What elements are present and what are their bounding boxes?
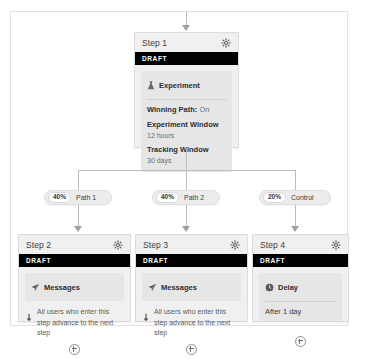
experiment-block-header: Experiment bbox=[147, 76, 226, 94]
delay-value: After 1 day bbox=[265, 307, 336, 316]
messages-block-header: Messages bbox=[31, 278, 118, 296]
branch-drop-center bbox=[186, 170, 187, 190]
experiment-block-label: Experiment bbox=[159, 81, 200, 90]
status-badge: DRAFT bbox=[135, 52, 238, 65]
branch-drop-right bbox=[295, 170, 296, 190]
card-header: Step 2 bbox=[19, 235, 130, 254]
delay-block-label: Delay bbox=[278, 283, 298, 292]
branch-pill-path-1[interactable]: 40% Path 1 bbox=[44, 190, 112, 205]
flask-icon bbox=[147, 76, 155, 94]
messages-block[interactable]: Messages bbox=[142, 273, 241, 301]
status-badge: DRAFT bbox=[136, 254, 247, 267]
branch-label: Path 2 bbox=[184, 194, 204, 201]
plus-icon[interactable] bbox=[295, 336, 306, 347]
status-label: DRAFT bbox=[142, 55, 167, 62]
messages-block-label: Messages bbox=[44, 283, 80, 292]
step-title: Step 3 bbox=[143, 240, 168, 250]
arrow-down-icon bbox=[182, 25, 190, 31]
branch-pill-control[interactable]: 20% Control bbox=[259, 190, 331, 205]
messages-block-label: Messages bbox=[161, 283, 197, 292]
branch-trunk-line bbox=[186, 148, 187, 170]
flow-canvas: Step 1 DRAFT bbox=[10, 11, 348, 326]
winning-path-value: On bbox=[199, 105, 209, 114]
messages-block-header: Messages bbox=[148, 278, 235, 296]
send-icon bbox=[148, 278, 157, 296]
step-card-2[interactable]: Step 2 DRAFT bbox=[18, 234, 131, 322]
arrow-down-icon bbox=[291, 226, 299, 232]
arrow-down-icon bbox=[74, 226, 82, 232]
clock-icon bbox=[265, 278, 274, 296]
card-header: Step 3 bbox=[136, 235, 247, 254]
delay-block[interactable]: Delay After 1 day bbox=[259, 273, 342, 321]
add-step-wrap bbox=[253, 327, 348, 353]
arrow-down-icon bbox=[182, 226, 190, 232]
status-label: DRAFT bbox=[26, 257, 51, 264]
branch-percent: 20% bbox=[263, 192, 286, 204]
step-card-3[interactable]: Step 3 DRAFT bbox=[135, 234, 248, 322]
branch-percent: 40% bbox=[48, 192, 71, 204]
entry-connector-line bbox=[186, 12, 187, 26]
branch-label: Control bbox=[291, 194, 314, 201]
delay-block-header: Delay bbox=[265, 278, 336, 296]
status-label: DRAFT bbox=[260, 257, 285, 264]
step-note: All users who enter this step advance to… bbox=[19, 307, 130, 339]
add-step-wrap bbox=[19, 339, 130, 359]
arrow-down-icon bbox=[25, 308, 33, 326]
status-badge: DRAFT bbox=[253, 254, 348, 267]
divider bbox=[147, 99, 226, 100]
branch-drop-left bbox=[78, 170, 79, 190]
card-body: Messages bbox=[136, 267, 247, 307]
status-badge: DRAFT bbox=[19, 254, 130, 267]
step-note-text: All users who enter this step advance to… bbox=[37, 307, 123, 339]
pill-drop-center bbox=[186, 205, 187, 227]
experiment-window-row: Experiment Window bbox=[147, 120, 226, 131]
divider bbox=[265, 301, 336, 302]
arrow-down-icon bbox=[142, 308, 150, 326]
send-icon bbox=[31, 278, 40, 296]
pill-drop-left bbox=[78, 205, 79, 227]
card-body: Messages bbox=[19, 267, 130, 307]
step-note: All users who enter this step advance to… bbox=[136, 307, 247, 339]
branch-label: Path 1 bbox=[76, 194, 96, 201]
winning-path-label: Winning Path: bbox=[147, 105, 197, 114]
card-header: Step 4 bbox=[253, 235, 348, 254]
pill-drop-right bbox=[295, 205, 296, 227]
plus-icon[interactable] bbox=[186, 344, 197, 355]
card-header: Step 1 bbox=[135, 33, 238, 52]
tracking-window-label: Tracking Window bbox=[147, 145, 209, 154]
winning-path-row: Winning Path: On bbox=[147, 105, 226, 116]
branch-percent: 40% bbox=[156, 192, 179, 204]
experiment-window-value: 12 hours bbox=[147, 131, 226, 142]
gear-icon[interactable] bbox=[331, 240, 341, 250]
branch-pill-path-2[interactable]: 40% Path 2 bbox=[152, 190, 220, 205]
gear-icon[interactable] bbox=[230, 240, 240, 250]
step-note-text: All users who enter this step advance to… bbox=[154, 307, 240, 339]
experiment-window-label: Experiment Window bbox=[147, 120, 219, 129]
gear-icon[interactable] bbox=[113, 240, 123, 250]
step-title: Step 4 bbox=[260, 240, 285, 250]
step-title: Step 1 bbox=[142, 38, 167, 48]
plus-icon[interactable] bbox=[69, 344, 80, 355]
step-card-experiment[interactable]: Step 1 DRAFT bbox=[134, 32, 239, 148]
step-card-4[interactable]: Step 4 DRAFT bbox=[252, 234, 349, 322]
add-step-wrap bbox=[136, 339, 247, 359]
gear-icon[interactable] bbox=[221, 38, 231, 48]
card-body: Delay After 1 day bbox=[253, 267, 348, 327]
step-title: Step 2 bbox=[26, 240, 51, 250]
status-label: DRAFT bbox=[143, 257, 168, 264]
messages-block[interactable]: Messages bbox=[25, 273, 124, 301]
